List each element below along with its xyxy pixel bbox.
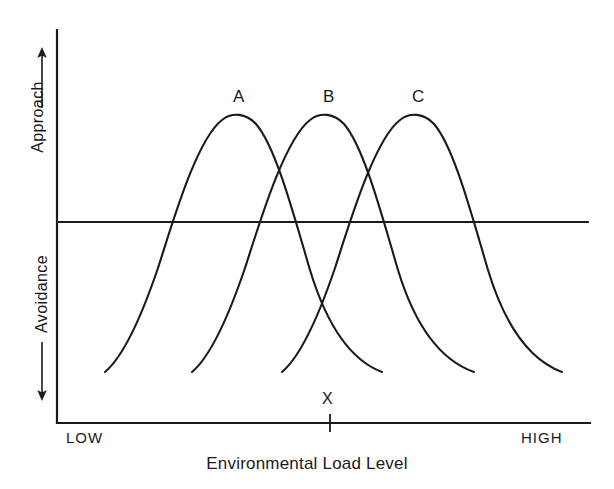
chart-figure: Approach Avoidance LOW HIGH X Environmen… [0, 0, 614, 489]
y-axis-label-avoidance: Avoidance [33, 232, 51, 356]
x-axis-title: Environmental Load Level [0, 454, 614, 474]
curve-label-c: C [412, 87, 424, 107]
curve-label-b: B [323, 87, 334, 107]
y-axis-label-approach: Approach [29, 57, 47, 177]
curve-label-a: A [233, 87, 244, 107]
x-tick-label-high: HIGH [521, 429, 563, 446]
curve-a [105, 115, 382, 372]
x-tick-label-low: LOW [66, 429, 103, 446]
plot-area [0, 0, 614, 489]
x-marker-label: X [322, 390, 333, 408]
curve-c [282, 115, 562, 372]
curve-b [192, 115, 474, 372]
